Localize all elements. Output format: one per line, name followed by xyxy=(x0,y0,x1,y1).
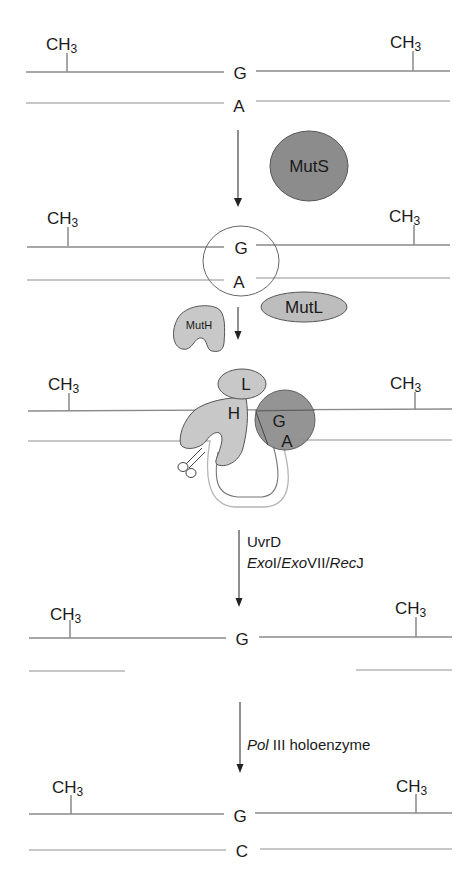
base-bottom: C xyxy=(236,842,248,861)
base-top: G xyxy=(272,412,285,431)
methyl-label-right: CH3 xyxy=(390,374,422,395)
arrow-step-4 xyxy=(237,702,244,773)
muts-label: MutS xyxy=(289,157,329,176)
methyl-label-left: CH3 xyxy=(47,209,79,230)
muth-label: MutH xyxy=(186,319,212,331)
step4-polymerase-label: Pol III holoenzyme xyxy=(247,736,370,753)
methyl-label-right: CH3 xyxy=(390,33,422,54)
methyl-label-left: CH3 xyxy=(52,778,84,799)
methyl-label-right: CH3 xyxy=(389,207,421,228)
complex-h-label: H xyxy=(228,404,240,423)
muts-protein: MutS xyxy=(270,131,348,201)
mutl-complex: L xyxy=(218,369,266,399)
panel-4-dna: CH3 CH3 G xyxy=(29,599,452,671)
step3-exonuclease-label: ExoI/ExoVII/RecJ xyxy=(247,554,364,571)
step3-uvrd-label: UvrD xyxy=(247,533,281,550)
arrow-step-3 xyxy=(236,530,243,607)
base-top: G xyxy=(233,64,246,83)
base-top: G xyxy=(235,630,248,649)
arrow-step-2 xyxy=(235,307,242,340)
panel-1-dna: CH3 CH3 G A xyxy=(26,33,450,116)
base-bottom: A xyxy=(233,97,245,116)
methyl-label-left: CH3 xyxy=(46,35,78,56)
methyl-label-right: CH3 xyxy=(396,777,428,798)
mismatch-repair-diagram: CH3 CH3 G A MutS CH3 CH3 G A MutL xyxy=(0,0,475,889)
complex-l-label: L xyxy=(241,375,250,394)
base-top: G xyxy=(233,807,246,826)
arrow-step-1 xyxy=(234,130,242,207)
base-bottom: A xyxy=(281,432,293,451)
mutl-label: MutL xyxy=(285,298,323,317)
base-top: G xyxy=(234,239,247,258)
muts-complex: G A xyxy=(255,390,315,451)
muth-complex: H xyxy=(180,398,247,466)
panel-2-dna: CH3 CH3 G A xyxy=(27,207,450,296)
base-bottom: A xyxy=(233,273,245,292)
methyl-label-right: CH3 xyxy=(395,599,427,620)
methyl-label-left: CH3 xyxy=(48,375,80,396)
mutl-protein: MutL xyxy=(261,292,347,322)
muth-protein: MutH xyxy=(173,306,224,352)
methyl-label-left: CH3 xyxy=(50,605,82,626)
panel-5-dna: CH3 CH3 G C xyxy=(29,777,452,861)
scissors-icon xyxy=(178,448,205,478)
